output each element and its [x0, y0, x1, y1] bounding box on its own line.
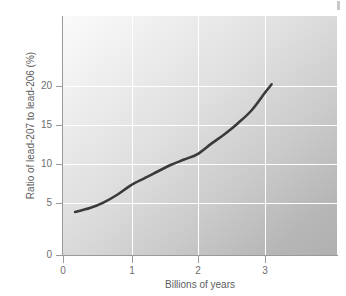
- x-axis-tick-2: [198, 256, 199, 263]
- x-axis-tick-1: [132, 256, 133, 263]
- y-axis-tick-0: [56, 255, 63, 256]
- x-axis-tick-label-1: 1: [122, 266, 142, 276]
- gridline-horizontal-5: [63, 203, 337, 204]
- gridline-horizontal-10: [63, 164, 337, 165]
- y-axis-tick-5: [56, 203, 63, 204]
- gridline-vertical-2: [198, 16, 199, 255]
- x-axis-tick-label-0: 0: [53, 266, 73, 276]
- x-axis-title: Billions of years: [63, 279, 337, 290]
- page-corner-mark: [337, 1, 340, 10]
- x-axis-tick-label-2: 2: [188, 266, 208, 276]
- y-axis-tick-label-0: 0: [30, 250, 52, 260]
- x-axis-tick-0: [63, 256, 64, 263]
- y-axis-tick-15: [56, 125, 63, 126]
- y-axis-tick-10: [56, 164, 63, 165]
- x-axis-tick-label-3: 3: [255, 266, 275, 276]
- gridline-horizontal-15: [63, 125, 337, 126]
- gridline-vertical-1: [132, 16, 133, 255]
- y-axis-title: Ratio of lead-207 to lead-206 (%): [25, 36, 36, 216]
- y-axis-tick-20: [56, 86, 63, 87]
- y-axis-line: [62, 16, 63, 255]
- gridline-horizontal-20: [63, 86, 337, 87]
- chart-page: 20 15 10 5 0 0 1 2 3 Ratio of lead-207 t…: [0, 0, 346, 296]
- gridline-vertical-3: [265, 16, 266, 255]
- x-axis-line: [62, 255, 338, 256]
- x-axis-tick-3: [265, 256, 266, 263]
- plot-area: [63, 16, 337, 255]
